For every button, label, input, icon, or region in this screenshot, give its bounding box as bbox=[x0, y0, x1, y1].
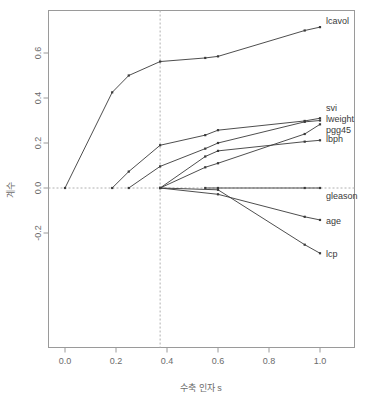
data-point bbox=[159, 165, 161, 167]
data-point bbox=[319, 187, 321, 189]
chart-background bbox=[0, 0, 369, 401]
x-tick-label: 0.2 bbox=[110, 356, 123, 366]
data-point bbox=[204, 148, 206, 150]
data-point bbox=[217, 142, 219, 144]
x-tick-label: 0.0 bbox=[59, 356, 72, 366]
data-point bbox=[304, 141, 306, 143]
x-tick-label: 1.0 bbox=[314, 356, 327, 366]
lasso-coefficient-path-chart: 0.00.20.40.60.81.0 -0.20.00.20.40.6 lcav… bbox=[0, 0, 369, 401]
data-point bbox=[319, 119, 321, 121]
data-point bbox=[111, 91, 113, 93]
data-point bbox=[204, 155, 206, 157]
data-point bbox=[304, 187, 306, 189]
data-point bbox=[304, 133, 306, 135]
x-tick-label: 0.8 bbox=[263, 356, 276, 366]
series-label-gleason: gleason bbox=[326, 191, 358, 201]
data-point bbox=[319, 252, 321, 254]
data-point bbox=[217, 150, 219, 152]
data-point bbox=[319, 123, 321, 125]
series-label-lcavol: lcavol bbox=[326, 16, 349, 26]
data-point bbox=[159, 144, 161, 146]
data-point bbox=[128, 74, 130, 76]
data-point bbox=[304, 216, 306, 218]
data-point bbox=[217, 129, 219, 131]
series-label-lbph: lbph bbox=[326, 134, 343, 144]
data-point bbox=[304, 29, 306, 31]
data-point bbox=[204, 134, 206, 136]
data-point bbox=[319, 26, 321, 28]
data-point bbox=[204, 187, 206, 189]
data-point bbox=[217, 189, 219, 191]
data-point bbox=[64, 187, 66, 189]
data-point bbox=[111, 187, 113, 189]
data-point bbox=[319, 139, 321, 141]
y-tick-label: 0.6 bbox=[33, 47, 43, 60]
y-tick-label: 0.2 bbox=[33, 137, 43, 150]
data-point bbox=[217, 193, 219, 195]
data-point bbox=[319, 219, 321, 221]
y-tick-label: 0.4 bbox=[33, 92, 43, 105]
y-tick-label: -0.2 bbox=[33, 225, 43, 241]
data-point bbox=[304, 121, 306, 123]
x-axis-title: 수축 인자 s bbox=[180, 383, 222, 393]
series-label-lcp: lcp bbox=[326, 249, 338, 259]
series-label-age: age bbox=[326, 216, 341, 226]
data-point bbox=[304, 244, 306, 246]
y-tick-label: 0.0 bbox=[33, 182, 43, 195]
data-point bbox=[128, 187, 130, 189]
x-tick-label: 0.4 bbox=[161, 356, 174, 366]
data-point bbox=[159, 187, 161, 189]
data-point bbox=[159, 60, 161, 62]
chart-canvas: 0.00.20.40.60.81.0 -0.20.00.20.40.6 lcav… bbox=[0, 0, 369, 401]
data-point bbox=[217, 55, 219, 57]
y-axis-title: 계수 bbox=[5, 182, 16, 198]
series-label-lweight: lweight bbox=[326, 114, 355, 124]
data-point bbox=[204, 166, 206, 168]
series-label-svi: svi bbox=[326, 103, 337, 113]
data-point bbox=[128, 170, 130, 172]
data-point bbox=[319, 117, 321, 119]
data-point bbox=[217, 162, 219, 164]
data-point bbox=[204, 57, 206, 59]
x-tick-label: 0.6 bbox=[212, 356, 225, 366]
